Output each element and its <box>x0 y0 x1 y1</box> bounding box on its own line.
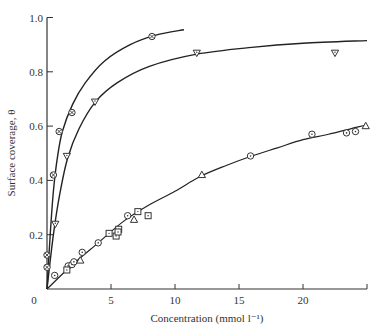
circle-cross-marker <box>149 33 155 39</box>
square-dot-marker <box>106 230 112 236</box>
x-tick-label: 5 <box>108 294 114 306</box>
circle-cross-marker <box>56 128 62 134</box>
x-tick-label: 10 <box>170 294 182 306</box>
triangle-up-marker <box>130 216 137 222</box>
circle-dot-marker <box>352 128 358 134</box>
y-tick-label: 0.4 <box>29 174 43 186</box>
x-tick-label: 15 <box>234 294 246 306</box>
circle-dot-marker <box>124 212 130 218</box>
data-markers <box>44 33 370 278</box>
triangle-down-marker <box>52 221 59 227</box>
y-tick-label: 1.0 <box>29 12 43 24</box>
circle-cross-marker <box>69 109 75 115</box>
circle-cross-marker <box>44 264 50 270</box>
circle-dot-marker <box>79 249 85 255</box>
fit-curve-2 <box>47 41 367 289</box>
adsorption-isotherm-chart: 051015200.20.40.60.81.0 Concentration (m… <box>0 0 382 330</box>
circle-dot-marker <box>309 131 315 137</box>
circle-dot-marker <box>247 153 253 159</box>
square-dot-marker <box>115 229 121 235</box>
circle-dot-marker <box>51 272 57 278</box>
circle-cross-marker <box>44 252 50 258</box>
y-tick-label: 0.6 <box>29 120 43 132</box>
x-tick-label: 0 <box>31 294 37 306</box>
square-dot-marker <box>145 213 151 219</box>
circle-cross-marker <box>50 172 56 178</box>
square-dot-marker <box>135 209 141 215</box>
square-dot-marker <box>64 267 70 273</box>
y-axis-title: Surface coverage, θ <box>5 110 17 197</box>
y-tick-label: 0.8 <box>29 66 43 78</box>
circle-dot-marker <box>95 240 101 246</box>
fit-curves <box>47 30 367 289</box>
triangle-down-marker <box>331 50 338 56</box>
x-axis-title: Concentration (mmol l⁻¹) <box>151 312 264 325</box>
x-tick-label: 20 <box>298 294 310 306</box>
triangle-down-marker <box>91 99 98 105</box>
circle-dot-marker <box>343 130 349 136</box>
fit-curve-linear <box>47 125 367 289</box>
triangle-down-marker <box>63 153 70 159</box>
circle-dot-marker <box>71 259 77 265</box>
y-tick-label: 0.2 <box>29 229 43 241</box>
